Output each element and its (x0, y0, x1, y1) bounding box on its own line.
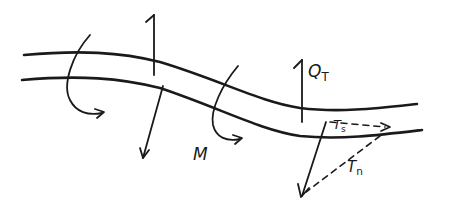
force-down-left-icon (140, 86, 163, 158)
shear-force-up-left-icon (146, 15, 154, 75)
shear-force-qt-icon (294, 60, 302, 122)
moment-arrow-middle-icon (213, 66, 242, 144)
traction-label-tn: Tn (347, 160, 363, 177)
traction-label-ts: Ts (333, 118, 346, 134)
moment-label: M (193, 146, 208, 163)
beam-upper-edge (24, 52, 417, 110)
beam-free-body-diagram (0, 0, 450, 207)
traction-normal-tn-icon (306, 136, 380, 192)
traction-resultant-icon (298, 122, 326, 197)
shear-label-qt: QT (308, 63, 329, 83)
beam-lower-edge (22, 78, 422, 138)
